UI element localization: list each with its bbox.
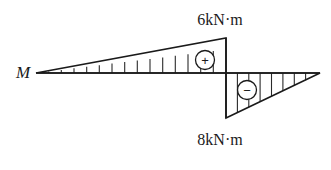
negative-sign-marker: − <box>238 81 257 100</box>
bending-moment-diagram: + − M 6kN·m 8kN·m <box>0 0 331 170</box>
negative-peak-value-label: 8kN·m <box>197 131 243 148</box>
positive-peak-value-label: 6kN·m <box>197 11 243 28</box>
minus-sign-glyph: − <box>243 83 251 98</box>
positive-region-hatching <box>49 51 214 73</box>
moment-diagram-canvas: + − M 6kN·m 8kN·m <box>0 0 331 170</box>
moment-quantity-label: M <box>15 63 31 82</box>
plus-sign-glyph: + <box>201 53 209 68</box>
positive-sign-marker: + <box>196 51 215 70</box>
